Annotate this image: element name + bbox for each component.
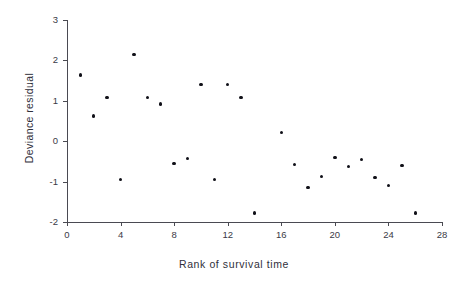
scatter-plot-figure: 0481216202428 -2-10123 Rank of survival … [0,0,468,283]
data-point [293,163,296,166]
data-point [132,53,135,56]
data-point [92,114,95,117]
x-tick-label: 12 [213,230,243,240]
y-axis-line [67,20,68,222]
y-axis-title: Deviance residual [23,33,35,203]
x-tick-label: 8 [159,230,189,240]
y-tick [63,222,67,223]
y-tick [63,182,67,183]
data-point [253,211,256,214]
x-tick-label: 0 [52,230,82,240]
data-point [347,165,350,168]
data-point [333,156,336,159]
x-tick-label: 28 [427,230,457,240]
data-point [105,96,108,99]
data-point [213,178,216,181]
data-point [226,83,229,86]
x-tick [335,222,336,226]
y-tick-label: 2 [40,55,58,65]
data-point [387,184,390,187]
x-tick [121,222,122,226]
x-tick [228,222,229,226]
y-tick-label: 1 [40,96,58,106]
x-tick-label: 4 [106,230,136,240]
y-tick [63,20,67,21]
x-tick [388,222,389,226]
data-point [306,186,309,189]
y-tick-label: 0 [40,136,58,146]
y-tick [63,60,67,61]
y-tick-label: -1 [40,177,58,187]
data-point [199,83,202,86]
data-point [159,102,162,105]
data-point [320,175,323,178]
data-point [239,96,242,99]
data-point [186,157,189,160]
x-tick [174,222,175,226]
x-tick-label: 24 [373,230,403,240]
x-tick-label: 20 [320,230,350,240]
y-tick-label: -2 [40,217,58,227]
data-point [360,158,363,161]
x-tick [281,222,282,226]
data-point [119,178,122,181]
x-tick [442,222,443,226]
data-point [373,176,376,179]
x-axis-title: Rank of survival time [0,258,468,270]
y-tick [63,141,67,142]
data-point [414,211,417,214]
data-point [146,96,149,99]
y-tick [63,101,67,102]
data-point [79,73,82,76]
x-axis-line [67,222,442,223]
y-tick-label: 3 [40,15,58,25]
x-tick-label: 16 [266,230,296,240]
data-point [172,162,175,165]
data-point [400,164,403,167]
data-point [280,131,283,134]
x-tick [67,222,68,226]
